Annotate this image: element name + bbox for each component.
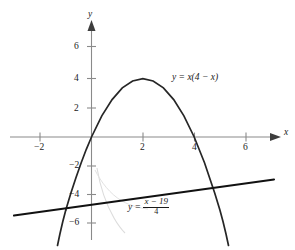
parabola-label-text: y = x(4 − x): [172, 72, 218, 82]
line-label-numerator: x − 19: [143, 197, 169, 206]
y-tick-label-6: 6: [74, 42, 79, 52]
y-axis-arrow: [88, 20, 96, 31]
x-tick-label--2: −2: [34, 143, 45, 153]
parabola-curve: [66, 79, 229, 246]
line-equation-label: y = x − 19 4: [128, 198, 169, 218]
y-tick-label--4: −4: [69, 190, 80, 200]
y-tick-label-4: 4: [74, 74, 79, 84]
math-figure: −2 2 4 6 6 4 2 −2 −4 −6 x y y = x(4 − x)…: [0, 0, 295, 250]
x-tick-label-6: 6: [243, 143, 248, 153]
line-label-lhs: y =: [128, 202, 141, 212]
x-tick-label-4: 4: [192, 143, 197, 153]
parabola-equation-label: y = x(4 − x): [172, 73, 218, 83]
y-tick-label-2: 2: [74, 104, 79, 114]
x-axis-arrow: [270, 133, 281, 141]
x-axis-label: x: [284, 128, 288, 138]
y-tick-label--6: −6: [69, 218, 80, 228]
x-tick-label-2: 2: [140, 143, 145, 153]
y-tick-label--2: −2: [69, 161, 80, 171]
parabola-curve-left-leg: [58, 210, 66, 246]
line-label-fraction: x − 19 4: [143, 197, 169, 217]
line-label-denominator: 4: [143, 208, 169, 216]
y-axis-label: y: [88, 10, 92, 20]
